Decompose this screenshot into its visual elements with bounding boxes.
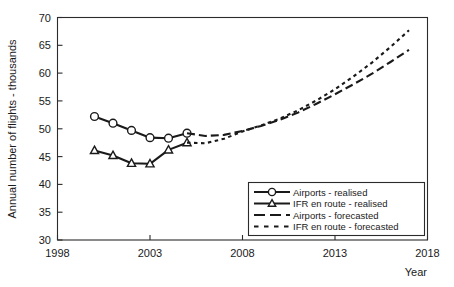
y-tick-label-70: 70 bbox=[39, 12, 51, 24]
data-point-circle bbox=[146, 134, 154, 142]
series-line-3 bbox=[187, 30, 409, 143]
legend-item-airports-realised: Airports - realised bbox=[254, 187, 367, 198]
data-point-circle bbox=[91, 113, 99, 121]
x-tick-label-1998: 1998 bbox=[45, 247, 69, 259]
y-tick-label-45: 45 bbox=[39, 151, 51, 163]
y-tick-label-55: 55 bbox=[39, 95, 51, 107]
y-axis-ticks bbox=[58, 18, 63, 241]
y-tick-label-30: 30 bbox=[39, 234, 51, 246]
chart-container: 70 65 60 55 50 45 40 35 30 1998 2003 200… bbox=[0, 0, 454, 287]
legend-label-2: Airports - forecasted bbox=[293, 210, 379, 221]
x-tick-label-2018: 2018 bbox=[415, 247, 439, 259]
x-tick-label-2013: 2013 bbox=[323, 247, 347, 259]
y-axis-title: Annual number of flights - thousands bbox=[6, 39, 18, 219]
chart-legend: Airports - realised IFR en route - reali… bbox=[249, 183, 425, 236]
legend-label-0: Airports - realised bbox=[293, 187, 367, 198]
series-1 bbox=[90, 138, 191, 167]
y-tick-label-35: 35 bbox=[39, 206, 51, 218]
data-point-circle bbox=[165, 134, 173, 142]
legend-label-1: IFR en route - realised bbox=[293, 198, 388, 209]
legend-label-3: IFR en route - forecasted bbox=[293, 221, 399, 232]
series-line-2 bbox=[187, 50, 409, 136]
data-point-circle bbox=[128, 127, 136, 135]
series-2 bbox=[187, 50, 409, 136]
series-line-0 bbox=[95, 117, 188, 139]
y-tick-label-60: 60 bbox=[39, 67, 51, 79]
y-tick-label-40: 40 bbox=[39, 178, 51, 190]
series-0 bbox=[91, 113, 191, 143]
series-layer bbox=[90, 30, 409, 167]
x-tick-label-2008: 2008 bbox=[230, 247, 254, 259]
y-tick-label-50: 50 bbox=[39, 123, 51, 135]
chart-svg: 70 65 60 55 50 45 40 35 30 1998 2003 200… bbox=[0, 0, 454, 287]
x-axis-title: Year bbox=[405, 266, 428, 278]
series-3 bbox=[187, 30, 409, 143]
data-point-triangle bbox=[90, 146, 98, 153]
y-tick-label-65: 65 bbox=[39, 39, 51, 51]
circle-marker-icon bbox=[268, 188, 275, 195]
data-point-circle bbox=[109, 119, 117, 127]
x-tick-label-2003: 2003 bbox=[138, 247, 162, 259]
